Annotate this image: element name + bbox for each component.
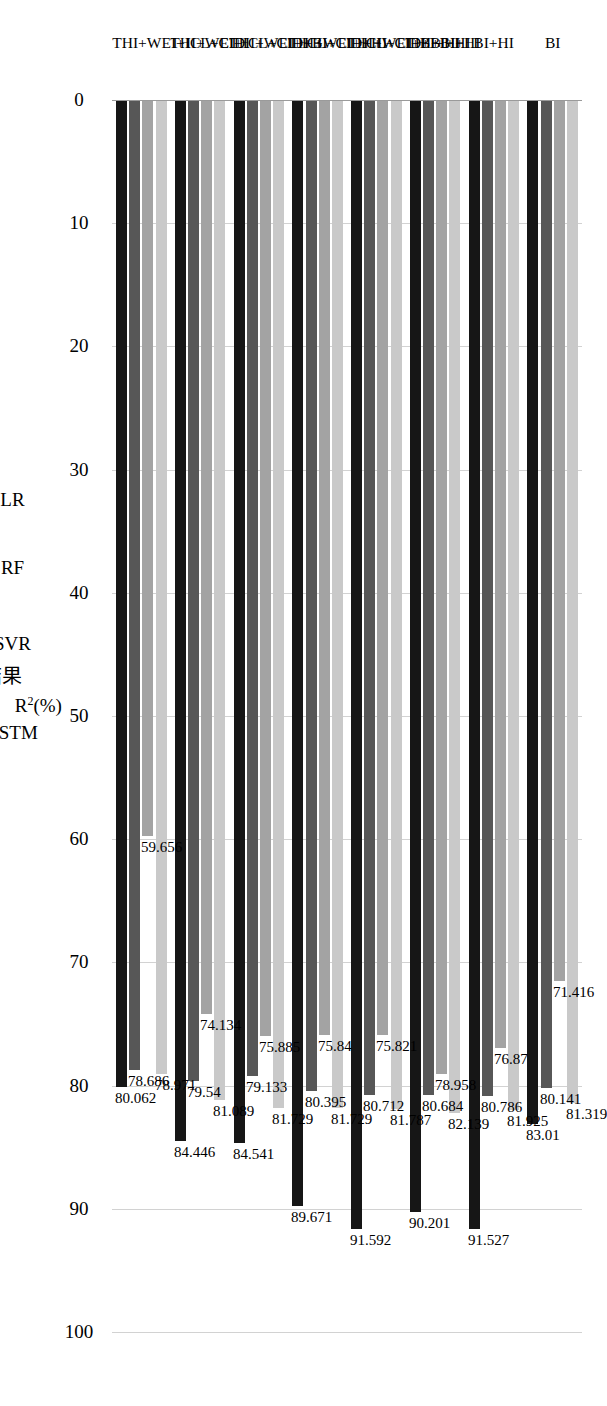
bar-rf <box>495 101 506 1048</box>
bar-group: 81.08974.13479.5484.446 <box>171 101 230 1332</box>
bars-container: 81.31971.41680.14183.0181.92576.8780.786… <box>112 100 582 1332</box>
bar-rf <box>142 101 153 836</box>
data-label: 81.729 <box>331 1113 372 1126</box>
legend: LSTMSVRRFLR <box>0 480 16 765</box>
data-label: 84.446 <box>174 1146 215 1159</box>
bar-group: 78.97159.65678.68680.062 <box>112 101 171 1332</box>
data-label: 83.01 <box>526 1129 560 1142</box>
legend-label: LSTM <box>0 721 38 743</box>
bar-group: 81.31971.41680.14183.01 <box>523 101 582 1332</box>
data-label: 81.925 <box>507 1115 548 1128</box>
data-label: 80.786 <box>481 1101 522 1114</box>
category-label: THI+WEI+ICL+CID <box>112 14 171 73</box>
data-label: 75.821 <box>376 1040 417 1053</box>
data-label: 81.089 <box>213 1105 254 1118</box>
bar-lr <box>273 101 284 1108</box>
bar-rf <box>377 101 388 1035</box>
value-tick-label: 0 <box>56 89 102 111</box>
bar-svr <box>129 101 140 1070</box>
bar-rf <box>436 101 447 1074</box>
bar-rf <box>554 101 565 981</box>
data-label: 81.787 <box>390 1114 431 1127</box>
bar-lr <box>508 101 519 1110</box>
data-label: 90.201 <box>409 1217 450 1230</box>
gridline <box>112 1332 582 1333</box>
bar-lr <box>332 101 343 1108</box>
bar-lstm <box>175 101 186 1141</box>
bar-lstm <box>234 101 245 1143</box>
bar-lstm <box>469 101 480 1229</box>
data-label: 71.416 <box>553 986 594 999</box>
value-tick-label: 80 <box>56 1075 102 1097</box>
figure-caption: (a) R方测试结果 <box>0 660 22 689</box>
bar-lstm <box>527 101 538 1124</box>
bar-lr <box>214 101 225 1100</box>
bar-svr <box>423 101 434 1095</box>
bar-group: 81.72975.8480.39589.671 <box>288 101 347 1332</box>
data-label: 75.885 <box>259 1041 300 1054</box>
data-label: 84.541 <box>233 1148 274 1161</box>
data-label: 81.319 <box>566 1108 607 1121</box>
data-label: 91.592 <box>350 1234 391 1247</box>
legend-item-rf[interactable]: RF <box>0 557 24 579</box>
bar-group: 81.72975.88579.13384.541 <box>230 101 289 1332</box>
bar-lr <box>391 101 402 1109</box>
bar-svr <box>247 101 258 1076</box>
data-label: 80.062 <box>115 1092 156 1105</box>
value-tick-label: 50 <box>56 705 102 727</box>
legend-label: RF <box>1 557 24 579</box>
data-label: 80.395 <box>305 1096 346 1109</box>
data-label: 79.133 <box>246 1081 287 1094</box>
value-axis-title: R2(%) <box>15 694 62 717</box>
bar-rf <box>319 101 330 1035</box>
category-label: BI <box>523 14 582 73</box>
bar-svr <box>188 101 199 1081</box>
bar-svr <box>306 101 317 1091</box>
value-tick-label: 100 <box>56 1321 102 1343</box>
legend-item-lstm[interactable]: LSTM <box>0 721 38 743</box>
bar-lstm <box>116 101 127 1087</box>
data-label: 80.141 <box>540 1093 581 1106</box>
data-label: 76.87 <box>494 1053 528 1066</box>
value-tick-label: 90 <box>56 1198 102 1220</box>
data-label: 74.134 <box>200 1019 241 1032</box>
bar-svr <box>482 101 493 1096</box>
value-tick-label: 60 <box>56 828 102 850</box>
legend-item-svr[interactable]: SVR <box>0 633 31 655</box>
bar-rf <box>260 101 271 1036</box>
bar-group: 82.13978.95880.68490.201 <box>406 101 465 1332</box>
data-label: 75.84 <box>318 1040 352 1053</box>
bar-lr <box>449 101 460 1113</box>
value-tick-label: 40 <box>56 582 102 604</box>
bar-group: 81.78775.82180.71291.592 <box>347 101 406 1332</box>
bar-svr <box>541 101 552 1088</box>
legend-label: LR <box>0 489 24 511</box>
data-label: 82.139 <box>448 1118 489 1131</box>
data-label: 91.527 <box>468 1234 509 1247</box>
value-tick-label: 10 <box>56 212 102 234</box>
data-label: 59.656 <box>141 841 182 854</box>
bar-rf <box>201 101 212 1014</box>
legend-label: SVR <box>0 633 31 655</box>
bar-lr <box>156 101 167 1074</box>
bar-lstm <box>351 101 362 1229</box>
value-tick-label: 70 <box>56 951 102 973</box>
legend-item-lr[interactable]: LR <box>0 489 25 511</box>
data-label: 78.686 <box>128 1075 169 1088</box>
bar-group: 81.92576.8780.78691.527 <box>465 101 524 1332</box>
bar-svr <box>364 101 375 1095</box>
value-tick-label: 20 <box>56 335 102 357</box>
value-tick-label: 30 <box>56 459 102 481</box>
data-label: 89.671 <box>291 1211 332 1224</box>
data-label: 81.729 <box>272 1113 313 1126</box>
bar-lr <box>567 101 578 1103</box>
data-label: 78.958 <box>435 1079 476 1092</box>
